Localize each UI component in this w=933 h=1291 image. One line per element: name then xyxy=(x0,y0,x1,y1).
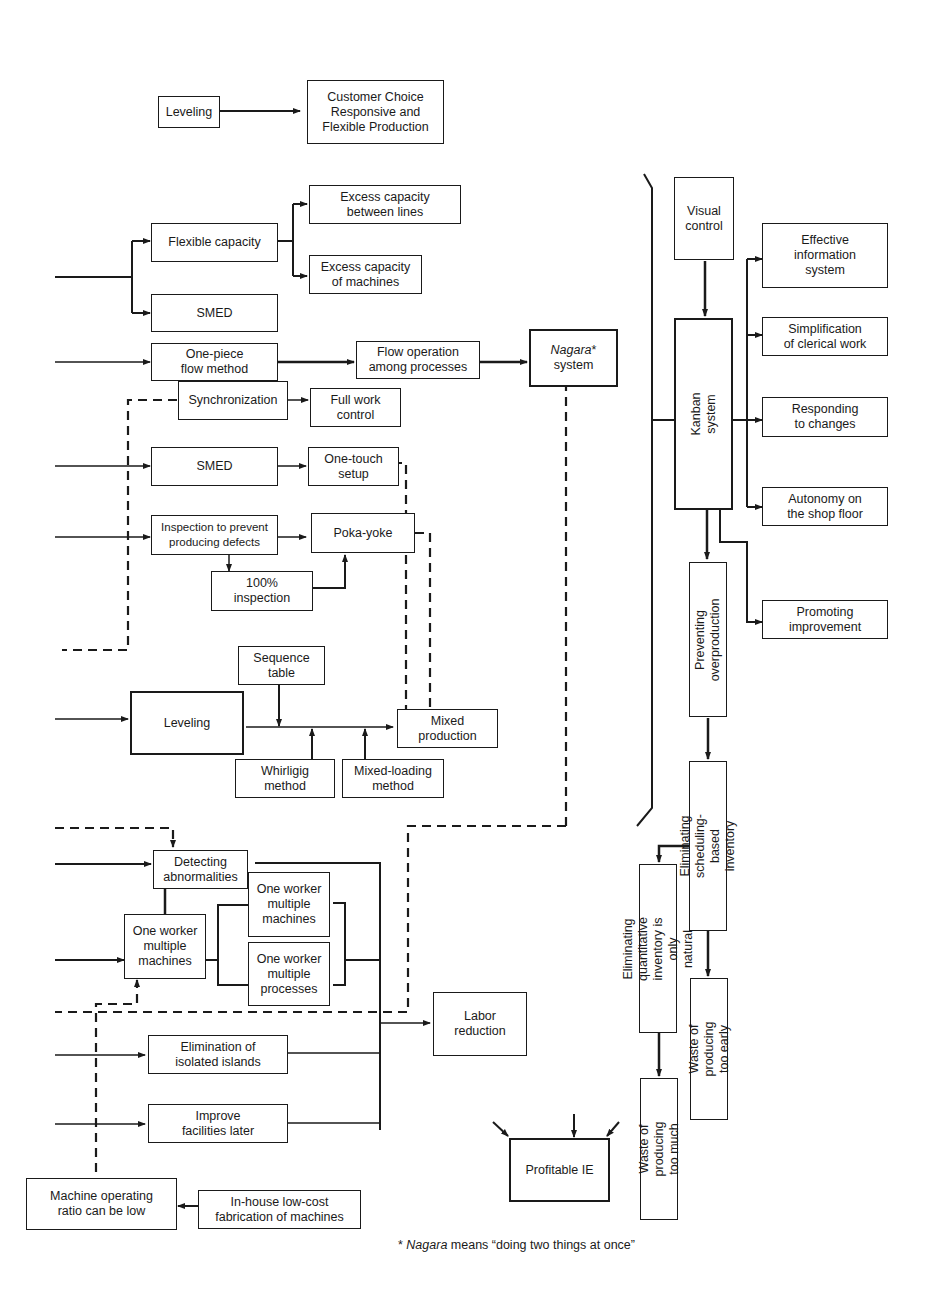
waste-too-early-label: Waste of producing too early xyxy=(687,1022,732,1077)
autonomy-box: Autonomy on the shop floor xyxy=(762,487,888,526)
effective-info-box: Effective information system xyxy=(762,223,888,288)
nagara-term: Nagara xyxy=(551,343,592,357)
inspection-prevent-box: Inspection to prevent producing defects xyxy=(151,515,278,555)
nagara-asterisk: * xyxy=(592,343,597,357)
eliminating-quantitative-box: Eliminating quantitative inventory is on… xyxy=(639,864,677,1033)
profitable-ie-box: Profitable IE xyxy=(509,1138,610,1202)
flexible-capacity-box: Flexible capacity xyxy=(151,223,278,262)
waste-too-early-box: Waste of producing too early xyxy=(690,978,728,1120)
nagara-system-label: system xyxy=(554,358,594,373)
mixed-production-box: Mixed production xyxy=(397,709,498,748)
excess-of-machines-box: Excess capacity of machines xyxy=(309,255,422,294)
kanban-system-box: Kanban system xyxy=(674,318,733,510)
poka-yoke-box: Poka-yoke xyxy=(311,513,415,553)
one-piece-flow-box: One-piece flow method xyxy=(151,343,278,381)
full-work-control-box: Full work control xyxy=(310,388,401,427)
footnote-term: Nagara xyxy=(406,1238,447,1252)
one-touch-setup-box: One-touch setup xyxy=(308,447,399,486)
eliminating-quantitative-label: Eliminating quantitative inventory is on… xyxy=(621,917,696,981)
smed-box-1: SMED xyxy=(151,294,278,332)
excess-between-lines-box: Excess capacity between lines xyxy=(309,185,461,224)
inspection-100-box: 100% inspection xyxy=(211,571,313,611)
inhouse-fabrication-box: In-house low-cost fabrication of machine… xyxy=(198,1190,361,1229)
labor-reduction-box: Labor reduction xyxy=(433,992,527,1056)
machine-operating-ratio-box: Machine operating ratio can be low xyxy=(26,1178,177,1230)
mixed-loading-box: Mixed-loading method xyxy=(342,759,444,798)
simplification-box: Simplification of clerical work xyxy=(762,317,888,356)
one-worker-machines-left-box: One worker multiple machines xyxy=(124,914,206,979)
improve-facilities-box: Improve facilities later xyxy=(148,1104,288,1143)
customer-choice-box: Customer Choice Responsive and Flexible … xyxy=(307,80,444,144)
one-worker-machines-box: One worker multiple machines xyxy=(248,872,330,937)
responding-changes-box: Responding to changes xyxy=(762,397,888,437)
nagara-system-box: Nagara* system xyxy=(529,329,618,387)
sequence-table-box: Sequence table xyxy=(238,646,325,685)
smed-box-2: SMED xyxy=(151,447,278,486)
whirligig-box: Whirligig method xyxy=(235,759,335,798)
preventing-overproduction-label: Preventing overproduction xyxy=(693,598,723,681)
detecting-abnormalities-box: Detecting abnormalities xyxy=(153,850,248,889)
flow-operation-box: Flow operation among processes xyxy=(356,341,480,379)
elimination-islands-box: Elimination of isolated islands xyxy=(148,1035,288,1074)
eliminating-scheduling-box: Eliminating scheduling- based inventory xyxy=(689,761,727,931)
waste-too-much-label: Waste of producing too much xyxy=(637,1122,682,1177)
waste-too-much-box: Waste of producing too much xyxy=(640,1078,678,1220)
one-worker-processes-box: One worker multiple processes xyxy=(248,942,330,1006)
eliminating-scheduling-label: Eliminating scheduling- based inventory xyxy=(678,814,738,878)
footnote-text: means “doing two things at once” xyxy=(447,1238,635,1252)
visual-control-box: Visual control xyxy=(674,177,734,260)
footnote: * Nagara means “doing two things at once… xyxy=(398,1238,635,1252)
preventing-overproduction-box: Preventing overproduction xyxy=(689,562,727,717)
kanban-system-label: Kanban system xyxy=(689,392,719,435)
connector-lines xyxy=(0,0,933,1291)
synchronization-box: Synchronization xyxy=(178,381,288,420)
leveling-box-2: Leveling xyxy=(130,691,244,755)
leveling-top-box: Leveling xyxy=(158,96,220,128)
promoting-improvement-box: Promoting improvement xyxy=(762,600,888,639)
